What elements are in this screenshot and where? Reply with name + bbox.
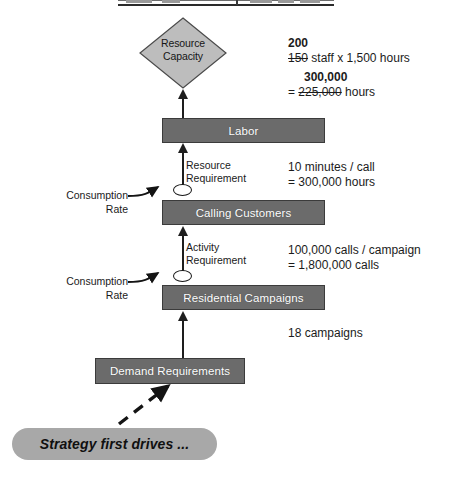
valve-resource-requirement[interactable]: [173, 184, 192, 196]
resource-capacity-label: Resource Capacity: [139, 37, 227, 62]
consumption-rate-line2: Rate: [36, 202, 128, 216]
annotation-activity-requirement: 100,000 calls / campaign = 1,800,000 cal…: [288, 243, 421, 273]
activity-total-value: = 1,800,000 calls: [288, 258, 421, 273]
arrow-stem: [182, 152, 184, 185]
activity-rate-value: 100,000 calls / campaign: [288, 243, 421, 258]
flow-labor-to-capacity: [178, 89, 188, 118]
cropped-table-header: [118, 0, 334, 6]
demand-total-value: 18 campaigns: [288, 326, 363, 341]
capacity-hours-unit: hours: [342, 85, 375, 99]
capacity-staff-new-value: 200: [288, 36, 410, 51]
capacity-staff-rest: staff x 1,500 hours: [308, 51, 410, 65]
resource-rate-value: 10 minutes / call: [288, 160, 375, 175]
strategy-note-label: Strategy first drives ...: [40, 436, 190, 452]
strategy-note-pill[interactable]: Strategy first drives ...: [12, 428, 217, 460]
table-header-text-ghost: [162, 0, 180, 3]
node-calling-customers-label: Calling Customers: [196, 207, 292, 219]
consumption-rate-line2: Rate: [36, 288, 128, 302]
diagram-canvas: Resource Capacity Labor Resource Require…: [0, 0, 453, 485]
label-consumption-rate-upper: Consumption Rate: [36, 188, 128, 216]
node-demand-requirements[interactable]: Demand Requirements: [95, 358, 245, 384]
label-consumption-rate-lower: Consumption Rate: [36, 274, 128, 302]
annotation-capacity-hours: 300,000 = 225,000 hours: [288, 70, 375, 100]
resource-total-value: = 300,000 hours: [288, 175, 375, 190]
arrow-stem: [182, 235, 184, 271]
resource-capacity-line2: Capacity: [139, 50, 227, 63]
node-labor[interactable]: Labor: [162, 118, 325, 143]
consumption-rate-line1: Consumption: [36, 188, 128, 202]
annotation-resource-requirement: 10 minutes / call = 300,000 hours: [288, 160, 375, 190]
capacity-hours-old-value: 225,000: [298, 85, 341, 99]
capacity-hours-eq: =: [288, 85, 298, 99]
resource-requirement-line2: Requirement: [186, 172, 246, 185]
resource-requirement-line1: Resource: [186, 159, 246, 172]
node-demand-requirements-label: Demand Requirements: [110, 365, 230, 377]
annotation-demand-requirement: 18 campaigns: [288, 326, 363, 341]
consumption-rate-line1: Consumption: [36, 274, 128, 288]
label-activity-requirement: Activity Requirement: [186, 241, 246, 267]
node-residential-campaigns[interactable]: Residential Campaigns: [162, 285, 325, 310]
arrow-stem: [182, 320, 184, 359]
table-header-text-ghost: [300, 0, 320, 3]
resource-capacity-line1: Resource: [139, 37, 227, 50]
capacity-hours-line: = 225,000 hours: [288, 85, 375, 100]
node-residential-campaigns-label: Residential Campaigns: [183, 292, 303, 304]
capacity-staff-line: 150 staff x 1,500 hours: [288, 51, 410, 66]
activity-requirement-line1: Activity: [186, 241, 246, 254]
table-header-text-ghost: [126, 0, 152, 3]
node-calling-customers[interactable]: Calling Customers: [162, 200, 325, 225]
annotation-capacity-staff: 200 150 staff x 1,500 hours: [288, 36, 410, 66]
capacity-staff-old-value: 150: [288, 51, 308, 65]
table-header-text-ghost: [278, 0, 294, 3]
arrow-stem: [182, 98, 184, 118]
label-resource-requirement: Resource Requirement: [186, 159, 246, 185]
capacity-hours-new-value: 300,000: [288, 70, 375, 85]
flow-demand-to-residential: [178, 311, 188, 359]
node-labor-label: Labor: [229, 125, 259, 137]
valve-activity-requirement[interactable]: [173, 270, 192, 282]
resource-capacity-node: Resource Capacity: [139, 17, 227, 89]
table-header-text-ghost: [250, 0, 272, 3]
table-header-rule: [118, 4, 334, 6]
activity-requirement-line2: Requirement: [186, 254, 246, 267]
table-header-divider: [236, 0, 238, 5]
